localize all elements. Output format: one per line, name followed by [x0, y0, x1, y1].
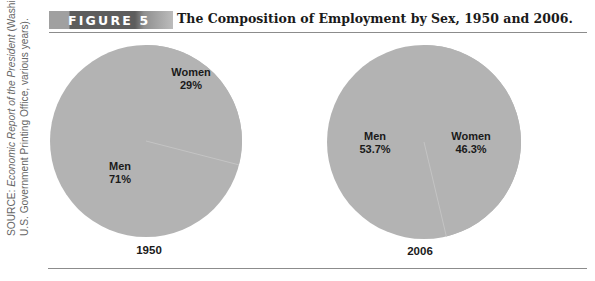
pie-1950-women-value: 29% — [180, 79, 202, 91]
pie-chart-1950: Women 29% Men 71% 1950 — [50, 45, 242, 256]
pie-2006-women-value: 46.3% — [455, 143, 486, 155]
pie-1950-men-value: 71% — [109, 173, 131, 185]
pie-charts: Women 29% Men 71% 1950 Men 53.7% Women 4… — [0, 0, 595, 281]
bottom-divider — [48, 268, 587, 269]
pie-2006-year: 2006 — [407, 245, 433, 257]
pie-1950-year: 1950 — [136, 244, 162, 256]
pie-chart-2006: Men 53.7% Women 46.3% 2006 — [327, 45, 521, 257]
pie-1950-men-label: Men — [109, 160, 131, 172]
pie-2006-women-label: Women — [451, 130, 491, 142]
pie-2006-men-label: Men — [364, 130, 386, 142]
pie-2006-men-value: 53.7% — [359, 143, 390, 155]
pie-1950-women-label: Women — [171, 66, 211, 78]
